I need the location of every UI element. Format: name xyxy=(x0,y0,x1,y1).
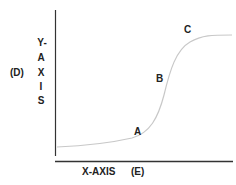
y-axis-letter: Y- xyxy=(37,38,46,48)
y-axis-letter: X xyxy=(38,68,45,78)
x-axis-marker: (E) xyxy=(131,167,144,177)
y-axis-letter: S xyxy=(38,96,45,106)
point-label-c: C xyxy=(184,25,191,35)
sigmoid-curve xyxy=(57,35,232,147)
point-label-b: B xyxy=(156,74,163,84)
x-axis-label: X-AXIS xyxy=(82,167,115,177)
point-label-a: A xyxy=(134,127,141,137)
y-axis-letter: A xyxy=(37,53,44,63)
y-axis-marker: (D) xyxy=(10,68,24,78)
diagram-canvas xyxy=(0,0,236,185)
y-axis-letter: I xyxy=(40,82,43,92)
